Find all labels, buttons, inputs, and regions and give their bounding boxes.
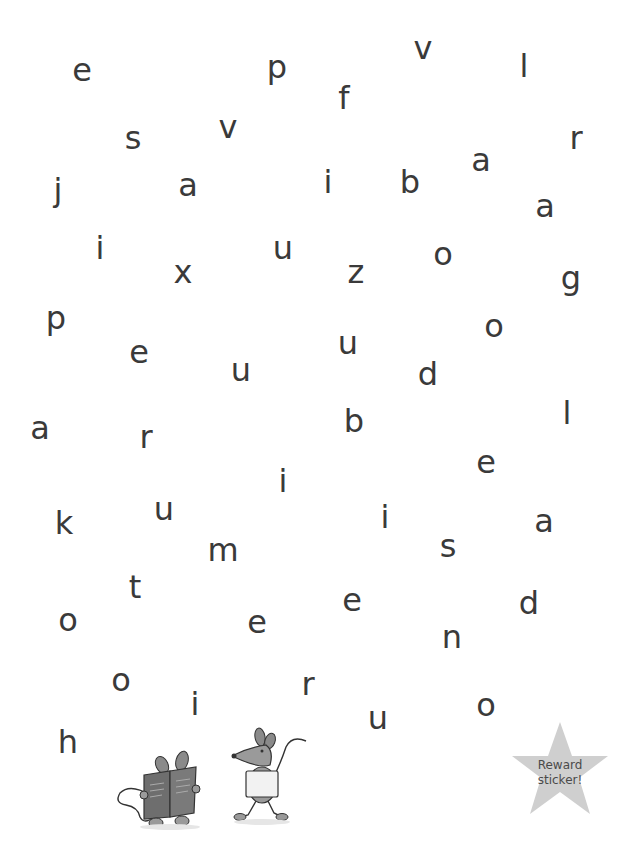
letter-j[interactable]: j — [54, 174, 63, 206]
letter-u[interactable]: u — [273, 232, 293, 264]
reward-sticker-line2: sticker! — [510, 773, 610, 788]
letter-e[interactable]: e — [476, 446, 496, 478]
reward-sticker[interactable]: Reward sticker! — [510, 720, 610, 818]
letter-a[interactable]: a — [534, 505, 554, 537]
letter-o[interactable]: o — [433, 238, 453, 270]
letter-hunt-page: epvlfsvrajaibaixuzogpoeuudarbleiukiasmte… — [0, 0, 621, 856]
reward-sticker-line1: Reward — [510, 758, 610, 773]
mouse-walking-icon — [110, 725, 320, 830]
letter-l[interactable]: l — [563, 397, 572, 429]
letter-b[interactable]: b — [344, 405, 364, 437]
letter-d[interactable]: d — [519, 587, 539, 619]
letter-i[interactable]: i — [96, 232, 105, 264]
letter-e[interactable]: e — [342, 584, 362, 616]
letter-k[interactable]: k — [55, 507, 74, 539]
letter-t[interactable]: t — [129, 571, 142, 603]
letter-i[interactable]: i — [324, 166, 333, 198]
letter-a[interactable]: a — [178, 169, 198, 201]
mice-illustration — [110, 725, 320, 830]
letter-o[interactable]: o — [58, 604, 78, 636]
letter-z[interactable]: z — [348, 256, 365, 288]
letter-h[interactable]: h — [58, 726, 78, 758]
letter-i[interactable]: i — [191, 688, 200, 720]
letter-o[interactable]: o — [476, 689, 496, 721]
letter-a[interactable]: a — [471, 144, 491, 176]
letter-u[interactable]: u — [368, 702, 388, 734]
letter-e[interactable]: e — [129, 336, 149, 368]
letter-u[interactable]: u — [231, 354, 251, 386]
letter-s[interactable]: s — [440, 530, 457, 562]
letter-p[interactable]: p — [46, 302, 66, 334]
letter-p[interactable]: p — [267, 51, 287, 83]
reward-sticker-label: Reward sticker! — [510, 758, 610, 788]
letter-a[interactable]: a — [30, 412, 50, 444]
letter-e[interactable]: e — [72, 54, 92, 86]
letter-r[interactable]: r — [139, 421, 152, 453]
letter-a[interactable]: a — [535, 190, 555, 222]
letter-b[interactable]: b — [400, 166, 420, 198]
letter-e[interactable]: e — [247, 606, 267, 638]
letter-o[interactable]: o — [111, 664, 131, 696]
letter-l[interactable]: l — [520, 50, 529, 82]
letter-m[interactable]: m — [207, 534, 238, 566]
letter-i[interactable]: i — [381, 501, 390, 533]
letter-v[interactable]: v — [219, 111, 238, 143]
letter-i[interactable]: i — [279, 465, 288, 497]
letter-d[interactable]: d — [418, 358, 438, 390]
letter-u[interactable]: u — [154, 493, 174, 525]
letter-r[interactable]: r — [569, 122, 582, 154]
letter-u[interactable]: u — [338, 327, 358, 359]
letter-x[interactable]: x — [174, 256, 193, 288]
letter-f[interactable]: f — [338, 82, 349, 114]
letter-o[interactable]: o — [484, 310, 504, 342]
letter-r[interactable]: r — [301, 668, 314, 700]
letter-s[interactable]: s — [125, 122, 142, 154]
letter-v[interactable]: v — [414, 32, 433, 64]
letter-n[interactable]: n — [442, 621, 462, 653]
letter-g[interactable]: g — [561, 262, 581, 294]
